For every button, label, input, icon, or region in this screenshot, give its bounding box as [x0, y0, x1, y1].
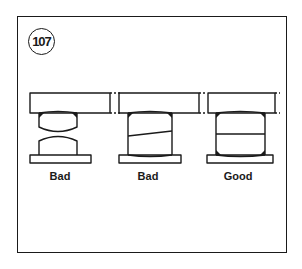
panel-label-bad-1: Bad	[30, 170, 90, 182]
panel-bad-2-drawing	[119, 93, 206, 163]
panel-label-bad-2: Bad	[118, 170, 178, 182]
bottom-plate	[30, 155, 91, 163]
top-plate	[30, 93, 110, 113]
panel-bad-1-drawing	[30, 93, 120, 163]
panel-label-good: Good	[208, 170, 268, 182]
diagram-illustration	[0, 0, 302, 269]
